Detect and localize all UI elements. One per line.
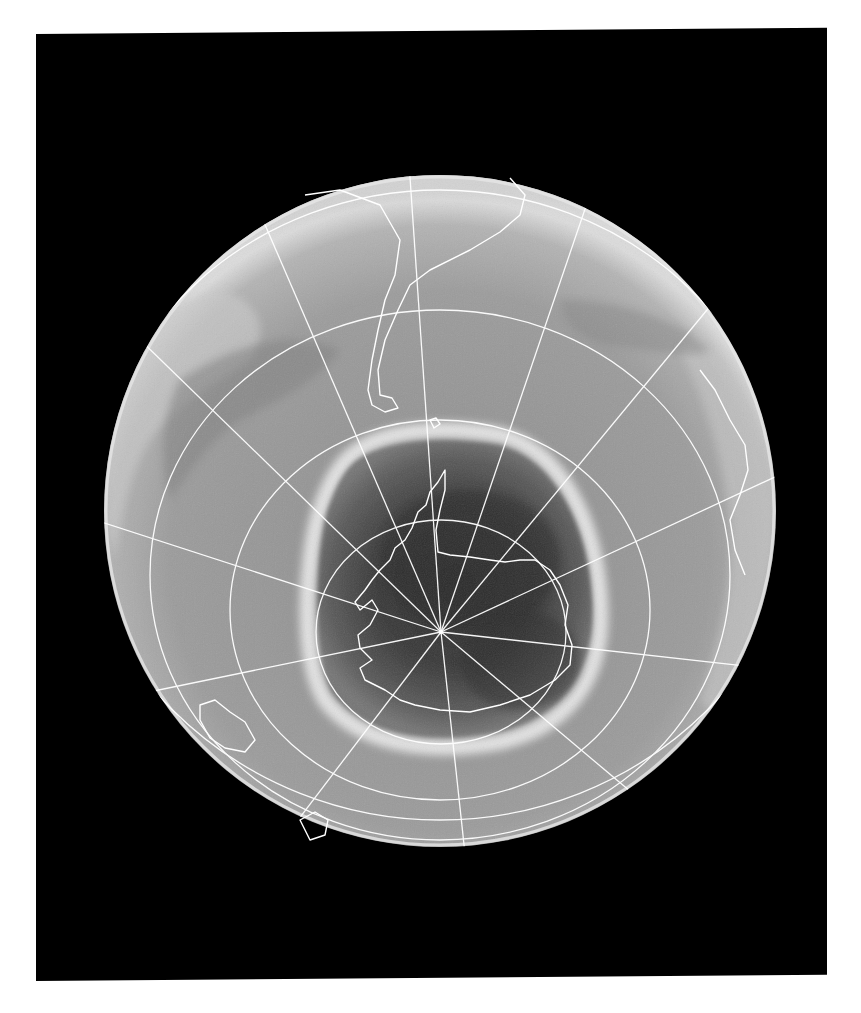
image-texture [100, 170, 780, 860]
earth-ozone-image [0, 0, 861, 1013]
south-pole-marker [439, 630, 443, 634]
